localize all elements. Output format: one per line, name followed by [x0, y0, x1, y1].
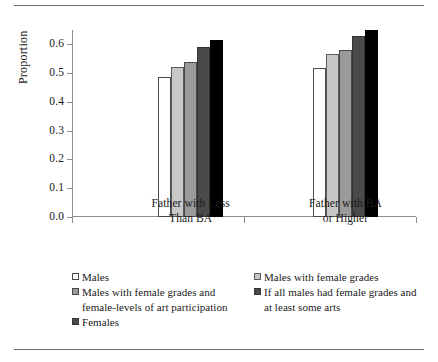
legend-column-right: Males with female gradesIf all males had… — [254, 270, 422, 330]
legend-item[interactable]: If all males had female grades and at le… — [254, 285, 422, 314]
x-axis-category-label: Father with LessThan BA — [106, 196, 276, 225]
x-tick-mark — [72, 217, 73, 223]
bar — [313, 68, 326, 217]
y-tick-label: 0.6 — [49, 39, 64, 51]
bar — [365, 30, 378, 217]
legend-swatch-icon — [72, 288, 79, 295]
plot-area: 0.00.10.20.30.40.50.6 — [72, 30, 416, 217]
bar — [184, 62, 197, 217]
category-label-line: Father with Less — [106, 196, 276, 211]
bar — [352, 36, 365, 217]
bottom-divider-rule — [14, 349, 424, 350]
y-tick-label: 0.1 — [49, 182, 64, 194]
legend-item[interactable]: Males with female grades and female-leve… — [72, 285, 240, 314]
legend-swatch-icon — [72, 318, 79, 325]
category-label-line: Father with BA — [260, 196, 430, 211]
chart-legend: MalesMales with female grades and female… — [72, 270, 424, 330]
bar-group — [158, 40, 223, 217]
legend-item[interactable]: Males with female grades — [254, 270, 422, 284]
legend-swatch-icon — [254, 288, 261, 295]
y-tick-label: 0.3 — [49, 125, 64, 137]
legend-label: Males — [82, 270, 109, 284]
legend-label: Females — [82, 315, 119, 329]
y-tick-mark — [67, 131, 72, 132]
bar — [339, 50, 352, 217]
legend-label: Males with female grades — [264, 270, 379, 284]
bar-group — [313, 30, 378, 217]
category-label-line: or Higher — [260, 211, 430, 226]
bar — [171, 67, 184, 217]
y-tick-mark — [67, 188, 72, 189]
bar — [326, 54, 339, 217]
bar — [210, 40, 223, 217]
legend-swatch-icon — [254, 273, 261, 280]
y-tick-label: 0.5 — [49, 67, 64, 79]
legend-swatch-icon — [72, 273, 79, 280]
legend-label: If all males had female grades and at le… — [264, 285, 422, 314]
y-tick-label: 0.2 — [49, 154, 64, 166]
y-tick-mark — [67, 73, 72, 74]
legend-column-left: MalesMales with female grades and female… — [72, 270, 240, 330]
y-axis-title: Proportion — [16, 31, 31, 84]
bar — [197, 47, 210, 217]
legend-item[interactable]: Females — [72, 315, 240, 329]
legend-label: Males with female grades and female-leve… — [82, 285, 240, 314]
chart-figure: Proportion 0.00.10.20.30.40.50.6 Father … — [0, 0, 438, 362]
y-tick-label: 0.4 — [49, 96, 64, 108]
category-label-line: Than BA — [106, 211, 276, 226]
y-tick-mark — [67, 102, 72, 103]
x-axis-category-label: Father with BAor Higher — [260, 196, 430, 225]
top-divider-rule — [14, 5, 424, 6]
y-tick-mark — [67, 44, 72, 45]
legend-item[interactable]: Males — [72, 270, 240, 284]
y-tick-label: 0.0 — [49, 211, 64, 223]
y-tick-mark — [67, 159, 72, 160]
y-axis-line — [72, 30, 73, 217]
